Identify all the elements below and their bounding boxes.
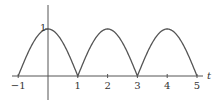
x-tick-label: 2 [104, 80, 110, 91]
x-tick-label: 3 [134, 80, 140, 91]
x-tick-labels: −112345 [11, 80, 200, 91]
x-tick-label: 5 [194, 80, 200, 91]
x-tick-label: −1 [11, 80, 26, 91]
x-tick-label: 4 [164, 80, 170, 91]
y-tick-label: 1 [40, 22, 46, 33]
chart: 1 t −112345 [0, 0, 219, 104]
curve [18, 29, 197, 76]
x-axis-label: t [207, 70, 212, 81]
x-tick-label: 1 [75, 80, 81, 91]
